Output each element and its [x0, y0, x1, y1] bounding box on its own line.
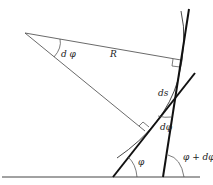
right-angle-upper	[172, 59, 180, 67]
center-angle-arc	[54, 39, 60, 57]
label-radius: R	[109, 49, 117, 59]
angle-arc-phi-plus-dphi	[168, 155, 184, 177]
radius-line-lower	[25, 33, 145, 131]
radius-line-upper	[25, 33, 181, 60]
diagram-canvas: d φ R ds dφ φ φ + dφ	[0, 0, 213, 185]
right-angle-lower	[139, 122, 149, 127]
label-center-angle: d φ	[61, 49, 77, 59]
angle-arc-phi	[128, 157, 137, 177]
label-arc-length: ds	[158, 88, 169, 98]
curvature-diagram: d φ R ds dφ φ φ + dφ	[0, 0, 213, 185]
curve-arc	[117, 11, 184, 158]
label-tangent-angle-2: φ + dφ	[183, 152, 213, 162]
label-tangent-angle-diff: dφ	[160, 122, 173, 132]
label-tangent-angle-1: φ	[138, 157, 145, 167]
